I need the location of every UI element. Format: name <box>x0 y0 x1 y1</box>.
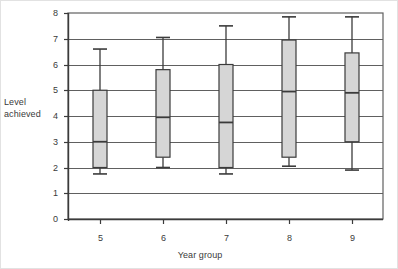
y-tick-label: 7 <box>42 34 58 44</box>
y-tick-label: 3 <box>42 137 58 147</box>
chart-figure: Level achieved Year group 01234567856789 <box>0 0 398 269</box>
y-tick-label: 6 <box>42 60 58 70</box>
box-iqr <box>282 40 296 157</box>
x-axis-title: Year group <box>1 250 398 260</box>
y-tick-label: 0 <box>42 214 58 224</box>
chart-surface: Level achieved Year group <box>1 1 397 268</box>
box-iqr <box>156 70 170 158</box>
y-tick-label: 5 <box>42 85 58 95</box>
box-iqr <box>345 53 359 142</box>
x-tick-label: 8 <box>280 233 300 243</box>
x-tick-label: 9 <box>343 233 363 243</box>
boxplot-svg <box>1 1 398 269</box>
y-tick-label: 1 <box>42 188 58 198</box>
box-iqr <box>219 65 233 168</box>
x-tick-label: 6 <box>154 233 174 243</box>
y-tick-label: 8 <box>42 8 58 18</box>
y-tick-label: 4 <box>42 111 58 121</box>
y-tick-label: 2 <box>42 163 58 173</box>
x-tick-label: 5 <box>91 233 111 243</box>
y-axis-title-line-1: Level <box>4 96 62 108</box>
x-tick-label: 7 <box>217 233 237 243</box>
box-iqr <box>93 90 107 167</box>
